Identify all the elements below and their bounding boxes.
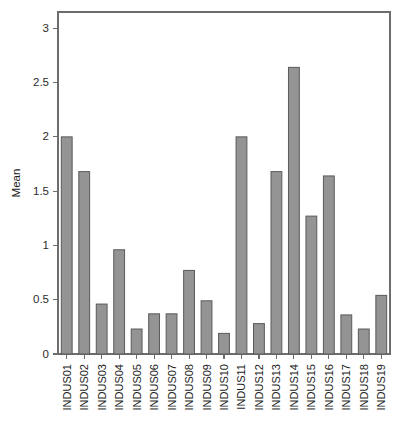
x-tick-label: INDUS06 xyxy=(148,364,160,410)
x-tick-label: INDUS12 xyxy=(253,364,265,410)
x-tick-label: INDUS17 xyxy=(340,364,352,410)
chart-canvas: 00.511.522.53 INDUS01INDUS02INDUS03INDUS… xyxy=(0,0,408,430)
y-axis: 00.511.522.53 xyxy=(33,22,58,360)
plot-frame xyxy=(58,12,390,354)
bar xyxy=(184,270,195,354)
bar xyxy=(236,137,247,354)
y-tick-label: 1.5 xyxy=(33,185,49,197)
plot-border xyxy=(58,12,390,354)
bar xyxy=(341,315,352,354)
y-axis-title: Mean xyxy=(10,169,22,198)
y-tick-label: 1 xyxy=(43,239,49,251)
y-tick-label: 3 xyxy=(43,22,49,34)
bar xyxy=(96,304,107,354)
x-tick-label: INDUS01 xyxy=(61,364,73,410)
x-tick-label: INDUS08 xyxy=(183,364,195,410)
bar xyxy=(79,172,90,354)
x-tick-label: INDUS13 xyxy=(270,364,282,410)
x-tick-label: INDUS04 xyxy=(113,364,125,410)
x-tick-label: INDUS16 xyxy=(323,364,335,410)
y-tick-label: 2.5 xyxy=(33,76,49,88)
x-tick-label: INDUS18 xyxy=(358,364,370,410)
x-tick-label: INDUS14 xyxy=(288,364,300,410)
bar xyxy=(271,172,282,354)
y-tick-label: 0 xyxy=(43,348,49,360)
x-tick-label: INDUS09 xyxy=(201,364,213,410)
x-tick-label: INDUS15 xyxy=(305,364,317,410)
bars-group xyxy=(61,67,386,354)
bar xyxy=(61,137,72,354)
x-tick-label: INDUS03 xyxy=(96,364,108,410)
x-tick-label: INDUS10 xyxy=(218,364,230,410)
bar xyxy=(323,176,334,354)
y-axis-title-group: Mean xyxy=(10,169,22,198)
bar xyxy=(131,329,142,354)
x-tick-label: INDUS07 xyxy=(166,364,178,410)
x-tick-label: INDUS02 xyxy=(78,364,90,410)
x-tick-label: INDUS19 xyxy=(375,364,387,410)
bar xyxy=(376,295,387,354)
bar-chart: 00.511.522.53 INDUS01INDUS02INDUS03INDUS… xyxy=(0,0,408,430)
bar xyxy=(149,314,160,354)
bar xyxy=(358,329,369,354)
bar xyxy=(114,250,125,354)
bar xyxy=(306,216,317,354)
x-tick-label: INDUS11 xyxy=(235,364,247,410)
bar xyxy=(219,333,230,354)
bar xyxy=(254,324,265,354)
bar xyxy=(201,301,212,354)
x-axis: INDUS01INDUS02INDUS03INDUS04INDUS05INDUS… xyxy=(61,354,388,410)
y-tick-label: 0.5 xyxy=(33,293,49,305)
bar xyxy=(166,314,177,354)
bar xyxy=(288,67,299,354)
y-tick-label: 2 xyxy=(43,130,49,142)
x-tick-label: INDUS05 xyxy=(131,364,143,410)
